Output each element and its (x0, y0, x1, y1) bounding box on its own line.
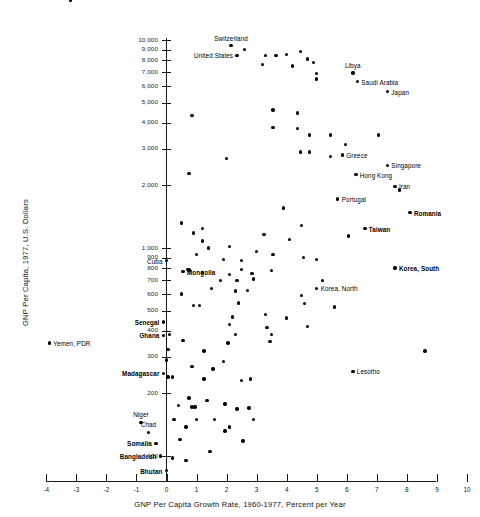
point-label-portugal: Portugal (342, 196, 366, 203)
data-point (240, 268, 243, 271)
data-point-bhutan (165, 469, 168, 472)
data-point-yemen-pdr (48, 341, 51, 344)
x-tick-mark (287, 474, 288, 482)
data-point (249, 377, 252, 380)
data-point (168, 333, 171, 336)
x-tick-label: 3 (245, 486, 269, 493)
data-point (201, 239, 204, 242)
x-tick-mark (76, 474, 77, 482)
data-point (246, 289, 249, 292)
data-point (377, 133, 380, 136)
data-point (299, 150, 302, 153)
point-label-iran: Iran (399, 183, 410, 190)
data-point-libya (351, 71, 354, 74)
y-tick-label: 10,000 (112, 37, 158, 44)
data-point (262, 233, 265, 236)
x-tick-mark (257, 474, 258, 482)
data-point (300, 224, 303, 227)
x-tick-mark (347, 474, 348, 482)
point-label-greece: Greece (346, 151, 367, 158)
data-point-singapore (386, 164, 389, 167)
y-tick-mark (162, 103, 171, 104)
data-point (166, 348, 169, 351)
x-tick-mark (407, 474, 408, 482)
scatter-plot-figure: 10,0009,0008,0007,0006,0005,0004,0003,00… (0, 0, 480, 517)
data-point (240, 379, 243, 382)
point-label-japan: Japan (391, 88, 409, 95)
data-point (208, 450, 211, 453)
x-tick-label: 1 (185, 486, 209, 493)
data-point-mongolia (181, 270, 184, 273)
y-tick-label: 3,000 (112, 145, 158, 152)
data-point (285, 53, 288, 56)
data-point-switzerland (229, 44, 232, 47)
point-label-switzerland: Switzerland (214, 35, 248, 42)
x-tick-label: -2 (94, 486, 118, 493)
y-tick-label-text: 800 (147, 265, 158, 271)
point-label-niger: Niger (133, 411, 149, 418)
point-label-somalia: Somalia (127, 440, 152, 447)
x-tick-mark (197, 474, 198, 482)
y-tick-label-text: 300 (147, 353, 158, 359)
data-point (235, 279, 238, 282)
data-point (306, 325, 309, 328)
data-point (210, 287, 213, 290)
y-tick-mark (162, 60, 171, 61)
point-label-bhutan: Bhutan (140, 467, 162, 474)
y-tick-label: 9,000 (112, 46, 158, 53)
data-point (271, 108, 274, 111)
data-point (184, 425, 187, 428)
y-tick-label-text: 9,000 (142, 46, 158, 52)
y-tick-mark (162, 40, 171, 41)
data-point-korea-south (393, 266, 396, 269)
data-point (243, 48, 246, 51)
data-point-korea-north (315, 287, 318, 290)
data-point (226, 341, 229, 344)
y-tick-mark (162, 149, 171, 150)
point-label-korea-south: Korea, South (399, 265, 439, 272)
y-tick-label-text: 7,000 (142, 69, 158, 75)
point-label-bangladesh: Bangladesh (120, 453, 157, 460)
data-point (171, 456, 174, 459)
data-point (228, 425, 231, 428)
data-point (308, 150, 311, 153)
data-point (172, 418, 175, 421)
data-point-romania (408, 211, 411, 214)
y-tick-mark (162, 248, 171, 249)
y-tick-label-text: 1,000 (142, 245, 158, 251)
x-tick-label: 8 (395, 486, 419, 493)
x-tick-mark (377, 474, 378, 482)
data-point (223, 402, 226, 405)
data-point (219, 279, 222, 282)
y-tick-label: 600 (112, 291, 158, 298)
y-tick-label: 6,000 (112, 83, 158, 90)
y-tick-label-text: 8,000 (142, 57, 158, 63)
y-tick-mark (162, 185, 171, 186)
data-point (192, 304, 195, 307)
data-point (198, 304, 201, 307)
y-tick-mark (162, 86, 171, 87)
data-point-senegal (162, 320, 165, 323)
y-tick-label: 5,000 (112, 99, 158, 106)
data-point (166, 375, 169, 378)
data-point-madagascar (162, 372, 165, 375)
data-point (252, 418, 255, 421)
data-point-cuba (165, 259, 168, 262)
data-point (228, 245, 231, 248)
y-tick-label-text: 3,000 (142, 145, 158, 151)
point-label-taiwan: Taiwan (369, 225, 390, 232)
x-tick-label: -3 (64, 486, 88, 493)
data-point (296, 111, 299, 114)
x-tick-mark (46, 474, 47, 482)
data-point (207, 246, 210, 249)
data-point (291, 64, 294, 67)
data-point (299, 50, 302, 53)
y-tick-label-text: 5,000 (142, 99, 158, 105)
y-tick-mark (162, 280, 171, 281)
data-point (222, 258, 225, 261)
x-tick-label: 9 (425, 486, 449, 493)
data-point (187, 396, 190, 399)
data-point (195, 418, 198, 421)
data-point (303, 302, 306, 305)
data-point (222, 360, 225, 363)
